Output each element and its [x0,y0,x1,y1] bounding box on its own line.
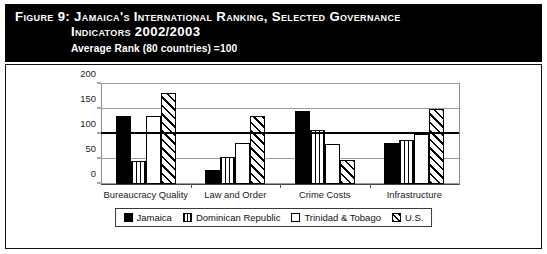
legend-item[interactable]: U.S. [392,212,423,223]
bar[interactable] [414,134,429,184]
x-axis-label: Crime Costs [299,189,351,200]
y-tick-label-0: 0 [91,168,96,179]
legend-item[interactable]: Trinidad & Tobago [291,212,381,223]
bar[interactable] [295,111,310,185]
bars [205,84,265,184]
bars [384,84,444,184]
bar[interactable] [250,116,265,185]
bar[interactable] [310,130,325,184]
legend-label: Jamaica [137,212,172,223]
x-axis-label: Infrastructure [387,189,442,200]
figure-title-line-1: Figure 9: Jamaica's International Rankin… [15,9,534,24]
legend-swatch-icon [183,213,192,222]
legend-item[interactable]: Jamaica [124,212,172,223]
bar[interactable] [116,116,131,184]
legend-item[interactable]: Dominican Republic [183,212,280,223]
legend-swatch-icon [124,213,133,222]
figure-subtitle: Average Rank (80 countries) =100 [15,39,534,56]
bar[interactable] [384,143,399,184]
legend-label: Trinidad & Tobago [304,212,381,223]
bar[interactable] [399,140,414,184]
bar[interactable] [429,109,444,184]
reference-line-100 [101,132,459,134]
figure-title-line-2: Indicators 2002/2003 [15,24,534,39]
bar[interactable] [220,157,235,185]
bar[interactable] [235,143,250,184]
y-tick-label-150: 150 [80,93,96,104]
legend-swatch-icon [291,213,300,222]
y-tick-label-50: 50 [86,143,96,154]
y-tick-label-200: 200 [80,68,96,79]
legend-label: Dominican Republic [196,212,280,223]
bar-group: Crime Costs [280,84,370,184]
figure-header: Figure 9: Jamaica's International Rankin… [5,4,542,62]
bar-group: Law and Order [191,84,281,184]
y-tick-label-100: 100 [80,118,96,129]
x-axis-label: Law and Order [204,189,266,200]
bar[interactable] [161,93,176,184]
plot-area: 050100150200 Bureaucracy QualityLaw and … [101,83,460,185]
bars [116,84,176,184]
bars [295,84,355,184]
bar[interactable] [205,170,220,184]
bar-group: Infrastructure [370,84,460,184]
figure-page: Figure 9: Jamaica's International Rankin… [0,0,547,254]
legend-label: U.S. [405,212,423,223]
bar[interactable] [131,161,146,185]
bar[interactable] [325,144,340,184]
legend-swatch-icon [392,213,401,222]
bar-group: Bureaucracy Quality [101,84,191,184]
chart-legend: JamaicaDominican RepublicTrinidad & Toba… [115,208,433,227]
chart-frame: 050100150200 Bureaucracy QualityLaw and … [5,64,542,249]
bar[interactable] [146,116,161,184]
bar[interactable] [340,160,355,184]
bar-groups: Bureaucracy QualityLaw and OrderCrime Co… [101,84,459,184]
x-axis-label: Bureaucracy Quality [104,189,188,200]
